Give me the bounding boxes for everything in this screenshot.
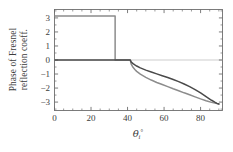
x-axis-label-degree: ° (141, 128, 144, 135)
y-tick-label: −2 (40, 83, 50, 93)
y-tick-label: 3 (46, 13, 51, 23)
y-tick-label: 2 (46, 27, 51, 37)
x-tick-label: 20 (87, 113, 97, 123)
x-tick-label: 80 (196, 113, 206, 123)
y-tick-label: −1 (40, 69, 50, 79)
x-tick-label: 0 (52, 113, 57, 123)
x-axis-label-subscript: i (138, 133, 140, 140)
y-tick-label: 0 (46, 55, 51, 65)
y-tick-label: 1 (46, 41, 51, 51)
x-tick-label: 60 (160, 113, 170, 123)
x-axis-label: θi° (54, 128, 222, 140)
y-tick-label: −3 (40, 97, 50, 107)
series-line-1 (55, 60, 219, 104)
x-tick-label: 40 (123, 113, 133, 123)
fresnel-phase-chart: Phase of Fresnel reflection coeff. 02040… (0, 0, 233, 152)
